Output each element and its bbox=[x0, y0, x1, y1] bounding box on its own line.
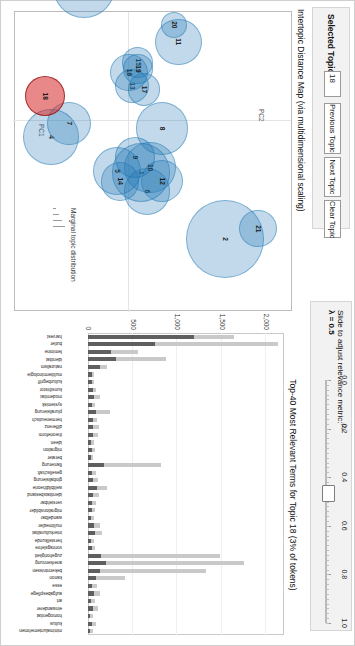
term-label[interactable]: weltbildtheorie bbox=[33, 485, 62, 490]
term-label[interactable]: flanierung bbox=[42, 462, 62, 467]
term-bar[interactable] bbox=[88, 395, 100, 399]
term-label[interactable]: identitat bbox=[46, 357, 62, 362]
term-label[interactable]: theorieform bbox=[39, 432, 62, 437]
term-bar[interactable] bbox=[88, 357, 166, 361]
term-label[interactable]: vortragslehre bbox=[35, 545, 62, 550]
term-label[interactable]: identitatsbestand bbox=[27, 492, 62, 497]
term-label[interactable]: verstehbar bbox=[40, 500, 62, 505]
term-label[interactable]: multimedier bbox=[38, 523, 62, 528]
term-label[interactable]: interkulturalitat bbox=[32, 530, 62, 535]
term-label[interactable]: zugehorigkeit bbox=[35, 553, 62, 558]
term-label[interactable]: einwanderer bbox=[37, 606, 62, 611]
topic-bubble-20[interactable]: 20 bbox=[161, 12, 187, 38]
term-label[interactable]: berater bbox=[47, 455, 62, 460]
topic-bubble-14[interactable]: 14 bbox=[101, 162, 140, 201]
barchart-y-tick-label: 1,500 bbox=[218, 314, 225, 333]
term-bar[interactable] bbox=[88, 342, 278, 346]
clear-topic-button[interactable]: Clear Topic bbox=[324, 200, 341, 238]
term-bar[interactable] bbox=[88, 599, 95, 603]
term-bar[interactable] bbox=[88, 350, 138, 354]
term-bar[interactable] bbox=[88, 493, 99, 497]
slider-minor-tick bbox=[326, 560, 329, 561]
term-bar[interactable] bbox=[88, 365, 107, 369]
term-bar[interactable] bbox=[88, 516, 94, 520]
term-bar[interactable] bbox=[88, 425, 99, 429]
term-bar[interactable] bbox=[88, 591, 100, 595]
term-label[interactable]: systemisk bbox=[42, 402, 62, 407]
barchart-plot-area[interactable]: 05001,0001,5002,000 harvestbutlerfeminin… bbox=[88, 333, 284, 635]
term-bar[interactable] bbox=[88, 561, 244, 565]
term-label[interactable]: pluralisierung bbox=[35, 409, 62, 414]
term-label[interactable]: kulturbegriff bbox=[38, 379, 62, 384]
previous-topic-button[interactable]: Previous Topic bbox=[324, 103, 341, 154]
term-bar[interactable] bbox=[88, 455, 93, 459]
term-bar[interactable] bbox=[88, 471, 96, 475]
term-bar[interactable] bbox=[88, 576, 125, 580]
term-label[interactable]: hermeneutisch bbox=[32, 417, 62, 422]
term-bar[interactable] bbox=[88, 539, 94, 543]
term-label[interactable]: aufgabespflege bbox=[31, 591, 62, 596]
term-bar[interactable] bbox=[88, 606, 98, 610]
slider-minor-tick bbox=[326, 433, 329, 434]
term-bar[interactable] bbox=[88, 380, 94, 384]
topic-bubble-label: 12 bbox=[159, 161, 166, 201]
topic-bubble-19[interactable]: 19 bbox=[123, 54, 152, 83]
term-label[interactable]: butler bbox=[51, 341, 63, 346]
selected-topic-input[interactable]: 18 bbox=[324, 71, 341, 97]
term-label[interactable]: migration bbox=[43, 447, 62, 452]
term-bar[interactable] bbox=[88, 463, 161, 467]
term-label[interactable]: bekenntnissen bbox=[32, 568, 62, 573]
term-bar[interactable] bbox=[88, 388, 96, 392]
term-bar[interactable] bbox=[88, 403, 95, 407]
term-bar[interactable] bbox=[88, 531, 102, 535]
term-bar[interactable] bbox=[88, 569, 206, 573]
term-label[interactable]: kanon bbox=[49, 575, 62, 580]
barchart-gridline bbox=[176, 333, 177, 635]
term-label[interactable]: harvest bbox=[47, 334, 62, 339]
term-label[interactable]: anerkennung bbox=[35, 560, 62, 565]
term-bar[interactable] bbox=[88, 418, 97, 422]
term-label[interactable]: ideen bbox=[51, 440, 62, 445]
term-label[interactable]: modernitat bbox=[40, 394, 62, 399]
term-bar[interactable] bbox=[88, 448, 95, 452]
term-bar[interactable] bbox=[88, 410, 110, 414]
term-bar[interactable] bbox=[88, 508, 95, 512]
term-label[interactable]: globalisierung bbox=[34, 477, 62, 482]
term-label[interactable]: migrationsbilder bbox=[30, 508, 62, 513]
term-bar[interactable] bbox=[88, 614, 93, 618]
term-label[interactable]: naturalism bbox=[41, 364, 62, 369]
term-bar-topic-portion bbox=[88, 508, 92, 512]
term-label[interactable]: multiterminologie bbox=[27, 372, 62, 377]
term-bar[interactable] bbox=[88, 335, 234, 339]
term-label[interactable]: minimalunternehmen bbox=[19, 628, 62, 633]
term-label[interactable]: herstellkunde bbox=[35, 538, 62, 543]
term-label[interactable]: esse bbox=[52, 583, 62, 588]
term-bar[interactable] bbox=[88, 622, 96, 626]
term-label[interactable]: homogenitat bbox=[37, 613, 62, 618]
topic-bubble-3[interactable]: 3 bbox=[53, 0, 115, 18]
legend-scale-bar bbox=[53, 214, 59, 215]
term-bar[interactable] bbox=[88, 478, 98, 482]
term-label[interactable]: feminine bbox=[45, 349, 62, 354]
term-bar[interactable] bbox=[88, 433, 98, 437]
term-bar[interactable] bbox=[88, 523, 100, 527]
term-bar[interactable] bbox=[88, 546, 95, 550]
term-label[interactable]: kultus bbox=[50, 621, 62, 626]
term-label[interactable]: kunsthistor bbox=[40, 387, 62, 392]
term-bar[interactable] bbox=[88, 486, 107, 490]
topic-bubble-21[interactable]: 21 bbox=[239, 210, 276, 247]
term-label[interactable]: differenz bbox=[44, 424, 62, 429]
next-topic-button[interactable]: Next Topic bbox=[324, 157, 341, 197]
term-bar[interactable] bbox=[88, 372, 94, 376]
map-plot-area[interactable]: PC1 PC2 12345678910111213141516171819202… bbox=[14, 11, 292, 311]
term-bar[interactable] bbox=[88, 554, 220, 558]
term-bar[interactable] bbox=[88, 501, 96, 505]
term-bar[interactable] bbox=[88, 629, 93, 633]
topic-bubble-12[interactable]: 12 bbox=[141, 160, 183, 202]
relevance-slider-handle[interactable] bbox=[322, 485, 335, 502]
term-label[interactable]: art bbox=[57, 598, 62, 603]
term-label[interactable]: gesellschaft bbox=[38, 470, 62, 475]
term-bar[interactable] bbox=[88, 584, 97, 588]
term-bar[interactable] bbox=[88, 440, 94, 444]
term-label[interactable]: wandelbar bbox=[41, 515, 62, 520]
